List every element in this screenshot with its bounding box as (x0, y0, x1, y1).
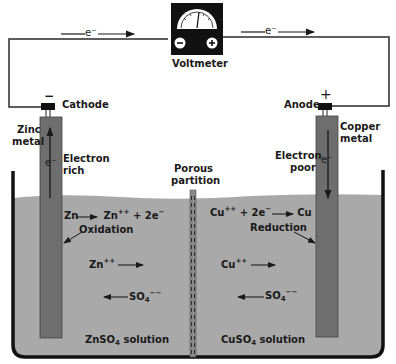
anode-sign: + (320, 88, 332, 100)
cathode-label: Cathode (62, 99, 109, 111)
znso4-solution-label: ZnSO4 solution (85, 334, 169, 346)
so4-ion-label-right: SO4−− (265, 290, 297, 302)
zn-ion-label: Zn++ (89, 259, 115, 271)
external-wire (9, 39, 168, 107)
wire-electron-label-left: e⁻ (85, 27, 96, 39)
anode-terminal (318, 103, 332, 110)
copper-metal-label-2: metal (340, 133, 372, 145)
cu-ion-label: Cu++ (221, 259, 247, 271)
cathode-sign: − (44, 90, 54, 102)
reduction-label: Reduction (250, 222, 307, 234)
reduction-reaction: Cu++ + 2e−Cu (210, 207, 312, 219)
electron-rich-label-2: rich (63, 165, 84, 177)
so4-ion-label-left: SO4−− (129, 291, 161, 303)
zinc-metal-label-2: metal (12, 136, 44, 148)
partition-label-1: Porous (174, 163, 213, 175)
porous-partition (190, 190, 196, 357)
electron-poor-label-2: poor (290, 162, 316, 174)
voltmeter-label: Voltmeter (172, 58, 228, 70)
zinc-metal-label-1: Zinc (17, 124, 41, 136)
copper-electron-label: e⁻ (321, 154, 332, 166)
copper-metal-label-1: Copper (340, 121, 380, 133)
oxidation-label: Oxidation (79, 224, 133, 236)
cuso4-solution-label: CuSO4 solution (221, 334, 305, 346)
cathode-terminal (41, 103, 55, 110)
oxidation-reaction: ZnZn++ + 2e− (64, 210, 164, 222)
wire-electron-label-right: e⁻ (265, 25, 276, 37)
electron-rich-label-1: Electron (63, 153, 110, 165)
electron-poor-label-1: Electron (275, 150, 322, 162)
anode-label: Anode (284, 99, 320, 111)
zinc-electrode (40, 117, 62, 338)
external-wire-right (222, 37, 389, 106)
zinc-electron-label: e⁻ (45, 157, 56, 169)
partition-label-2: partition (171, 175, 220, 187)
voltmeter (171, 3, 223, 55)
